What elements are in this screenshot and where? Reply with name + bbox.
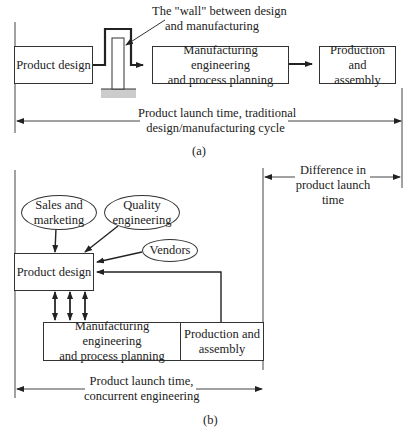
quality-line2: engineering [112,213,171,228]
timespan-a-line1: Product launch time, traditional [138,106,293,121]
caption-a: (a) [192,144,206,159]
quality-engineering-ellipse: Quality engineering [104,195,180,230]
wall-label: The "wall" between design and manufactur… [152,4,287,34]
production-line1-a: Production and [320,43,395,73]
vendors-label: Vendors [150,243,191,258]
sales-marketing-ellipse: Sales and marketing [21,195,97,230]
product-design-label-b: Product design [17,265,92,280]
timespan-b-line1: Product launch time, [84,374,199,389]
product-design-box-a: Product design [14,46,93,84]
difference-label: Difference in product launch time [295,163,371,208]
difference-line1: Difference in [295,163,371,178]
sales-line2: marketing [34,213,85,228]
wall-label-line2: and manufacturing [152,19,287,34]
product-design-label-a: Product design [16,58,91,73]
difference-line3: time [295,193,371,208]
production-line2-b: assembly [199,342,246,357]
difference-line2: product launch [295,178,371,193]
wall-label-line1: The "wall" between design [152,4,287,19]
timespan-b-line2: concurrent engineering [84,389,199,404]
timespan-label-b: Product launch time, concurrent engineer… [84,374,199,404]
manufacturing-engineering-box-a: Manufacturing engineering and process pl… [152,46,289,84]
sales-line1: Sales and [35,198,83,213]
production-assembly-box-b: Production and assembly [180,322,264,361]
timespan-a-line2: design/manufacturing cycle [138,121,293,136]
timespan-label-a: Product launch time, traditional design/… [138,106,293,136]
caption-b: (b) [203,413,218,428]
product-design-box-b: Product design [14,253,94,291]
mfg-eng-line2-b: and process planning [59,349,165,364]
production-line2-a: assembly [334,73,381,88]
manufacturing-engineering-box-b: Manufacturing engineering and process pl… [43,322,181,361]
mfg-eng-line1-b: Manufacturing engineering [44,319,180,349]
mfg-eng-line1-a: Manufacturing engineering [153,43,288,73]
production-assembly-box-a: Production and assembly [319,46,396,84]
quality-line1: Quality [123,198,161,213]
vendors-ellipse: Vendors [142,239,198,262]
production-line1-b: Production and [184,327,260,342]
mfg-eng-line2-a: and process planning [168,73,274,88]
